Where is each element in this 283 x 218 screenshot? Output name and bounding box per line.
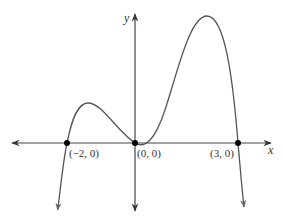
- y-axis-label: y: [123, 11, 130, 25]
- label-origin: (0, 0): [137, 147, 161, 160]
- polynomial-curve: [58, 16, 244, 207]
- point-neg2-0: [64, 140, 70, 146]
- point-origin: [132, 140, 138, 146]
- label-3-0: (3, 0): [210, 147, 234, 160]
- point-3-0: [235, 140, 241, 146]
- label-neg2-0: (−2, 0): [69, 147, 99, 160]
- x-axis-label: x: [267, 143, 274, 157]
- polynomial-graph: (−2, 0) (0, 0) (3, 0) x y: [0, 0, 283, 218]
